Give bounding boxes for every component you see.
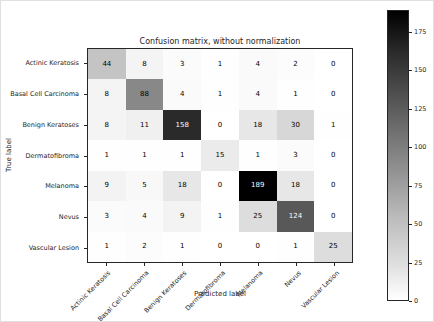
- matrix-cell: 0: [201, 110, 239, 140]
- matrix-cell: 158: [163, 110, 201, 140]
- plot-area: 4483142088841410811158018301111151309518…: [87, 48, 353, 263]
- matrix-cell: 1: [88, 232, 126, 262]
- y-axis-tick: [84, 156, 87, 157]
- x-axis-tick: [144, 263, 145, 266]
- matrix-cell: 124: [277, 201, 315, 231]
- matrix-cell: 3: [88, 201, 126, 231]
- x-axis-tick: [220, 263, 221, 266]
- matrix-cell: 18: [239, 110, 277, 140]
- chart-title: Confusion matrix, without normalization: [87, 37, 353, 46]
- colorbar-tick: [409, 186, 412, 187]
- colorbar: [387, 10, 409, 301]
- matrix-cell: 1: [314, 110, 352, 140]
- matrix-cell: 25: [239, 201, 277, 231]
- matrix-cell: 3: [163, 49, 201, 79]
- x-axis-tick: [334, 263, 335, 266]
- matrix-cell: 1: [163, 232, 201, 262]
- matrix-cell: 88: [126, 79, 164, 109]
- matrix-cell: 9: [163, 201, 201, 231]
- colorbar-tick-label: 0: [414, 297, 418, 305]
- colorbar-tick-label: 75: [414, 182, 422, 190]
- matrix-cell: 18: [163, 171, 201, 201]
- matrix-cell: 1: [201, 201, 239, 231]
- matrix-cell: 1: [201, 79, 239, 109]
- matrix-cell: 2: [126, 232, 164, 262]
- colorbar-tick-label: 125: [414, 105, 426, 113]
- colorbar-tick: [409, 263, 412, 264]
- matrix-cell: 4: [126, 201, 164, 231]
- y-axis-label: True label: [5, 95, 13, 215]
- matrix-cell: 0: [314, 201, 352, 231]
- matrix-cell: 1: [201, 49, 239, 79]
- matrix-cell: 4: [239, 49, 277, 79]
- x-axis-tick: [182, 263, 183, 266]
- y-axis-tick: [84, 125, 87, 126]
- colorbar-tick: [409, 301, 412, 302]
- matrix-cell: 1: [277, 232, 315, 262]
- x-axis-tick: [258, 263, 259, 266]
- y-axis-tick: [84, 186, 87, 187]
- matrix-cell: 8: [88, 79, 126, 109]
- matrix-cell: 15: [201, 140, 239, 170]
- matrix-cell: 0: [201, 232, 239, 262]
- matrix-cell: 189: [239, 171, 277, 201]
- heatmap-grid: 4483142088841410811158018301111151309518…: [88, 49, 352, 262]
- matrix-cell: 0: [239, 232, 277, 262]
- matrix-cell: 44: [88, 49, 126, 79]
- y-tick-label: Benign Keratoses: [22, 121, 79, 129]
- matrix-cell: 0: [314, 140, 352, 170]
- colorbar-tick-label: 150: [414, 66, 426, 74]
- y-axis-tick: [84, 217, 87, 218]
- x-axis-tick: [296, 263, 297, 266]
- matrix-cell: 0: [201, 171, 239, 201]
- matrix-cell: 0: [314, 49, 352, 79]
- matrix-cell: 1: [163, 140, 201, 170]
- x-tick-label: Nevus: [283, 269, 303, 289]
- y-tick-label: Vascular Lesion: [29, 244, 79, 252]
- matrix-cell: 0: [314, 171, 352, 201]
- matrix-cell: 2: [277, 49, 315, 79]
- colorbar-tick-label: 25: [414, 259, 422, 267]
- y-tick-label: Dermatofibroma: [26, 152, 79, 160]
- y-axis-tick: [84, 94, 87, 95]
- matrix-cell: 1: [277, 79, 315, 109]
- matrix-cell: 1: [88, 140, 126, 170]
- y-tick-label: Nevus: [59, 213, 79, 221]
- matrix-cell: 0: [314, 79, 352, 109]
- x-axis-label: Predicted label: [87, 290, 353, 298]
- x-axis-tick: [106, 263, 107, 266]
- y-axis-tick: [84, 63, 87, 64]
- matrix-cell: 4: [163, 79, 201, 109]
- matrix-cell: 1: [126, 140, 164, 170]
- colorbar-tick: [409, 109, 412, 110]
- matrix-cell: 1: [239, 140, 277, 170]
- matrix-cell: 4: [239, 79, 277, 109]
- colorbar-tick-label: 100: [414, 143, 426, 151]
- colorbar-tick: [409, 147, 412, 148]
- colorbar-tick: [409, 224, 412, 225]
- matrix-cell: 18: [277, 171, 315, 201]
- matrix-cell: 8: [126, 49, 164, 79]
- matrix-cell: 8: [88, 110, 126, 140]
- y-tick-label: Basal Cell Carcinoma: [10, 90, 79, 98]
- colorbar-tick: [409, 32, 412, 33]
- colorbar-tick-label: 175: [414, 28, 426, 36]
- confusion-matrix-figure: Confusion matrix, without normalization …: [0, 0, 434, 322]
- colorbar-tick: [409, 70, 412, 71]
- matrix-cell: 9: [88, 171, 126, 201]
- matrix-cell: 3: [277, 140, 315, 170]
- colorbar-tick-label: 50: [414, 220, 422, 228]
- y-tick-label: Melanoma: [45, 182, 79, 190]
- matrix-cell: 5: [126, 171, 164, 201]
- matrix-cell: 25: [314, 232, 352, 262]
- matrix-cell: 11: [126, 110, 164, 140]
- y-axis-tick: [84, 248, 87, 249]
- y-tick-label: Actinic Keratosis: [25, 59, 79, 67]
- matrix-cell: 30: [277, 110, 315, 140]
